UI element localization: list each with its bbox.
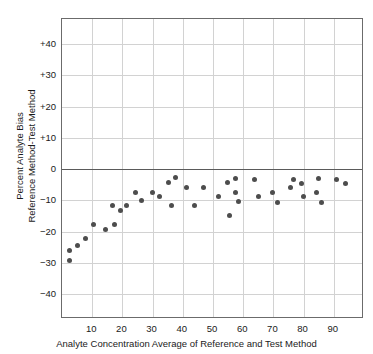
data-point (169, 203, 174, 208)
data-point (227, 213, 232, 218)
gridline-vertical-80 (304, 19, 305, 317)
data-point (67, 258, 72, 263)
data-point (184, 185, 189, 190)
gridline-horizontal--10 (62, 200, 362, 201)
data-point (334, 177, 339, 182)
x-axis-title: Analyte Concentration Average of Referen… (0, 338, 373, 349)
data-point (216, 194, 221, 199)
data-point (233, 176, 238, 181)
x-tick-label-60: 60 (237, 323, 248, 334)
data-point (91, 222, 96, 227)
data-point (150, 190, 155, 195)
data-point (139, 198, 144, 203)
data-point (133, 190, 138, 195)
y-axis-title-line1: Percent Analyte Bias (14, 56, 26, 256)
data-point (299, 181, 304, 186)
x-tick-label-70: 70 (267, 323, 278, 334)
zero-reference-line (62, 169, 362, 170)
gridline-vertical-70 (273, 19, 274, 317)
data-point (67, 248, 72, 253)
data-point (225, 180, 230, 185)
data-point (103, 227, 108, 232)
gridline-vertical-60 (243, 19, 244, 317)
y-axis-title: Percent Analyte Bias Reference Method-Te… (14, 56, 38, 256)
data-point (173, 175, 178, 180)
gridline-vertical-90 (334, 19, 335, 317)
data-point (291, 177, 296, 182)
gridline-vertical-40 (183, 19, 184, 317)
data-point (343, 181, 348, 186)
data-point (233, 190, 238, 195)
y-axis-title-line2: Reference Method-Test Method (26, 56, 38, 256)
plot-area (61, 18, 363, 318)
gridline-vertical-50 (213, 19, 214, 317)
data-point (83, 236, 88, 241)
data-point (275, 200, 280, 205)
data-point (314, 190, 319, 195)
gridline-vertical-10 (92, 19, 93, 317)
gridline-horizontal--40 (62, 294, 362, 295)
x-tick-label-90: 90 (328, 323, 339, 334)
gridline-horizontal-30 (62, 75, 362, 76)
y-tick-label--40: −40 (24, 288, 56, 299)
x-tick-label-80: 80 (297, 323, 308, 334)
data-point (157, 194, 162, 199)
gridline-horizontal-40 (62, 44, 362, 45)
x-tick-label-20: 20 (116, 323, 127, 334)
gridline-horizontal--30 (62, 263, 362, 264)
y-tick-label--30: −30 (24, 256, 56, 267)
gridline-vertical-20 (122, 19, 123, 317)
x-tick-label-30: 30 (146, 323, 157, 334)
data-point (252, 177, 257, 182)
data-point (256, 194, 261, 199)
data-point (288, 185, 293, 190)
x-axis-tick-labels: 102030405060708090 (0, 323, 373, 337)
data-point (236, 199, 241, 204)
gridline-vertical-30 (153, 19, 154, 317)
data-point (319, 200, 324, 205)
data-point (270, 190, 275, 195)
data-point (124, 203, 129, 208)
data-point (166, 180, 171, 185)
data-point (301, 194, 306, 199)
y-tick-label-40: +40 (24, 38, 56, 49)
scatter-plot-figure: +40+30+20+100−10−20−30−40 10203040506070… (0, 0, 373, 354)
x-tick-label-50: 50 (207, 323, 218, 334)
gridline-horizontal--20 (62, 232, 362, 233)
data-point (112, 222, 117, 227)
data-point (75, 243, 80, 248)
data-point (316, 176, 321, 181)
x-tick-label-40: 40 (177, 323, 188, 334)
data-point (192, 203, 197, 208)
data-point (201, 185, 206, 190)
gridline-horizontal-10 (62, 138, 362, 139)
gridline-horizontal-20 (62, 107, 362, 108)
data-point (110, 203, 115, 208)
x-tick-label-10: 10 (86, 323, 97, 334)
